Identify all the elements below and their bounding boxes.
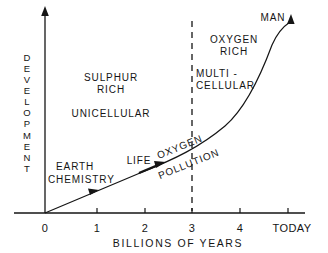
endpoint-label-man: MAN: [261, 12, 286, 23]
y-axis-title: D E V E L O P M E N T: [23, 52, 31, 174]
y-title-letter-10: T: [24, 163, 30, 174]
evolution-development-chart: 0 1 2 3 4 TODAY BILLIONS OF YEARS D E V …: [0, 0, 328, 253]
y-title-letter-4: L: [24, 96, 29, 107]
y-title-letter-7: M: [23, 130, 31, 141]
region-earth-chemistry-line1: EARTH: [56, 161, 94, 172]
region-sulphur-rich-line2: RICH: [97, 84, 125, 95]
y-title-letter-1: E: [24, 63, 30, 74]
y-title-letter-8: E: [24, 141, 30, 152]
x-tick-label-4: 4: [237, 222, 244, 234]
y-title-letter-2: V: [24, 74, 31, 85]
y-title-letter-5: O: [23, 107, 30, 118]
x-tick-label-today: TODAY: [273, 222, 312, 234]
region-unicellular: UNICELLULAR: [72, 108, 151, 119]
region-earth-chemistry-line2: CHEMISTRY: [48, 174, 115, 185]
x-tick-label-2: 2: [142, 222, 149, 234]
y-axis-arrow-icon: [41, 6, 49, 16]
x-axis: [14, 208, 305, 213]
curve-label-life: LIFE: [127, 155, 152, 166]
region-multicellular-line1: MULTI -: [196, 68, 238, 79]
x-axis-title: BILLIONS OF YEARS: [113, 237, 243, 249]
x-tick-label-1: 1: [94, 222, 101, 234]
x-tick-label-0: 0: [42, 222, 49, 234]
y-title-letter-3: E: [24, 85, 30, 96]
y-title-letter-6: P: [24, 118, 30, 129]
y-title-letter-0: D: [24, 52, 31, 63]
region-sulphur-rich-line1: SULPHUR: [84, 72, 138, 83]
man-curve-arrow-icon: [287, 14, 295, 24]
y-title-letter-9: N: [24, 152, 31, 163]
life-transition-segment: [139, 165, 158, 173]
x-tick-label-3: 3: [189, 222, 196, 234]
chart-canvas: 0 1 2 3 4 TODAY BILLIONS OF YEARS D E V …: [0, 0, 328, 253]
region-oxygen-rich-line1: OXYGEN: [210, 34, 258, 45]
region-multicellular-line2: CELLULAR: [196, 80, 255, 91]
region-oxygen-rich-line2: RICH: [220, 46, 248, 57]
